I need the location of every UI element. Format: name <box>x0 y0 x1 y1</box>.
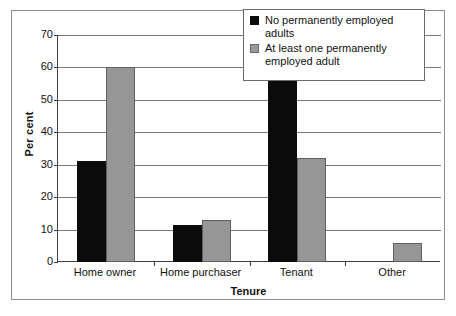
legend-label: At least one permanently employed adult <box>265 42 419 68</box>
x-axis-category-label: Home owner <box>57 266 153 279</box>
x-axis-title: Tenure <box>57 285 440 297</box>
y-axis-tick-label: 40 <box>19 126 53 137</box>
y-axis-tick <box>54 100 58 101</box>
bar <box>393 243 422 262</box>
y-axis-tick-label: 30 <box>19 159 53 170</box>
x-axis-tick-labels: Home ownerHome purchaserTenantOther <box>57 266 440 282</box>
bar <box>77 161 106 262</box>
legend-entry: At least one permanently employed adult <box>250 42 419 68</box>
bar <box>173 225 202 262</box>
y-axis-tick <box>54 230 58 231</box>
chart-figure: Per cent 010203040506070 Home ownerHome … <box>0 0 456 316</box>
x-axis-category-label: Home purchaser <box>153 266 249 279</box>
grey-square-swatch <box>250 44 259 53</box>
y-axis-tick-label: 70 <box>19 29 53 40</box>
legend-label: No permanently employed adults <box>265 14 419 40</box>
y-axis-tick-label: 10 <box>19 224 53 235</box>
x-axis-category-label: Tenant <box>249 266 345 279</box>
y-axis-tick-label: 50 <box>19 94 53 105</box>
y-axis-tick-label: 60 <box>19 61 53 72</box>
black-square-swatch <box>250 16 259 25</box>
y-axis-tick <box>54 197 58 198</box>
chart-legend: No permanently employed adultsAt least o… <box>243 9 425 81</box>
y-axis-tick <box>54 262 58 263</box>
y-axis-tick <box>54 35 58 36</box>
y-axis-tick-label: 20 <box>19 191 53 202</box>
bar <box>268 77 297 262</box>
y-axis-tick-label: 0 <box>19 256 53 267</box>
bar <box>297 158 326 262</box>
y-axis-tick <box>54 67 58 68</box>
x-axis-category-label: Other <box>344 266 440 279</box>
legend-entry: No permanently employed adults <box>250 14 419 40</box>
y-axis-tick-labels: 010203040506070 <box>17 35 53 262</box>
bar <box>106 67 135 262</box>
y-axis-tick <box>54 132 58 133</box>
y-axis-tick <box>54 165 58 166</box>
bar <box>202 220 231 262</box>
